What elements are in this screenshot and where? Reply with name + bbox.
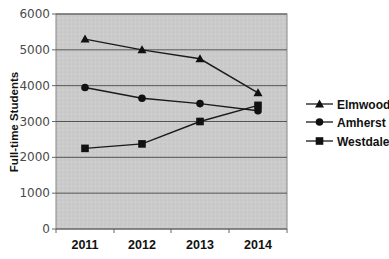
legend-label: Elmwood (337, 98, 389, 112)
x-tick-label: 2012 (128, 238, 156, 252)
y-axis-label: Full-time Students (8, 72, 20, 172)
circle-marker-icon (196, 100, 204, 108)
legend-item-westdale: Westdale (306, 135, 389, 149)
x-tick-label: 2014 (244, 238, 272, 252)
x-axis-ticks: 2011201220132014 (56, 229, 287, 252)
legend-item-elmwood: Elmwood (306, 98, 389, 112)
y-tick-label: 4000 (19, 79, 50, 93)
x-tick-label: 2013 (186, 238, 214, 252)
line-chart: 0100020003000400050006000 20112012201320… (0, 0, 389, 259)
legend-item-amherst: Amherst (306, 116, 386, 130)
square-marker-icon (316, 137, 324, 145)
y-tick-label: 2000 (19, 150, 50, 164)
legend: ElmwoodAmherstWestdale (306, 98, 389, 149)
y-tick-label: 5000 (19, 43, 50, 57)
circle-marker-icon (138, 94, 146, 102)
y-tick-label: 3000 (19, 115, 50, 129)
y-axis-ticks: 0100020003000400050006000 (19, 7, 56, 236)
y-tick-label: 6000 (19, 7, 50, 21)
x-tick-label: 2011 (71, 238, 98, 252)
square-marker-icon (254, 102, 262, 110)
legend-label: Westdale (337, 135, 389, 149)
circle-marker-icon (81, 84, 89, 92)
square-marker-icon (81, 145, 89, 153)
y-tick-label: 0 (42, 222, 50, 236)
circle-marker-icon (316, 118, 324, 126)
square-marker-icon (196, 118, 204, 126)
square-marker-icon (138, 140, 146, 148)
legend-label: Amherst (337, 116, 386, 130)
y-tick-label: 1000 (19, 186, 50, 200)
